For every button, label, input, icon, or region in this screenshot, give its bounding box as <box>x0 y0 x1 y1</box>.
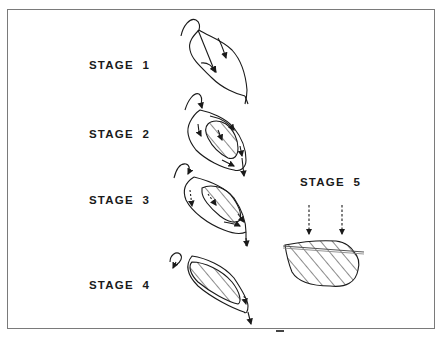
stage-5-drawing <box>283 205 364 286</box>
stage-2-drawing <box>185 94 246 171</box>
stage-3-drawing <box>174 158 247 246</box>
stage-1-drawing <box>181 19 248 104</box>
stage-4-drawing <box>170 253 251 324</box>
frame-tick-mark <box>276 330 284 332</box>
stages-diagram <box>0 0 444 337</box>
